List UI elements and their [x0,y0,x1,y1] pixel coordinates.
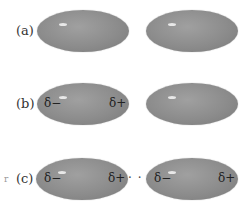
molecule-c-left: δ− δ+ [36,158,128,200]
partial-negative-charge: δ− [44,171,61,185]
molecule-a-left [37,10,129,52]
partial-negative-charge: δ− [154,171,171,185]
molecule-b-left: δ− δ+ [37,83,129,125]
highlight [59,23,67,26]
partial-positive-charge: δ+ [109,96,126,110]
highlight [168,23,176,26]
molecule-a-right [146,10,238,52]
row-label-c: (c) [16,171,33,186]
molecule-b-right [146,83,238,125]
partial-positive-charge: δ+ [218,171,235,185]
row-label-a: (a) [16,23,34,38]
molecule-c-right: δ− δ+ [146,158,238,200]
row-label-b: (b) [16,96,34,111]
partial-positive-charge: δ+ [108,171,125,185]
margin-mark: r [4,174,8,184]
partial-negative-charge: δ− [44,96,61,110]
highlight [168,96,176,99]
